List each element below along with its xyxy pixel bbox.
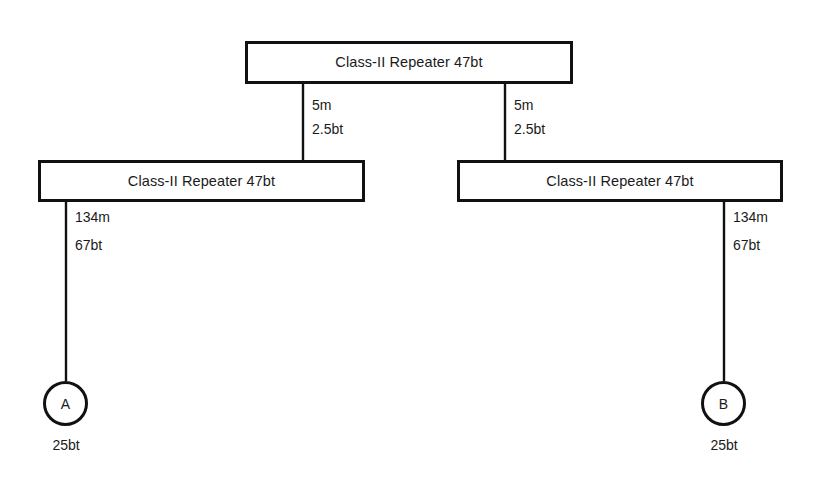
- station-b-budget-label: 25bt: [699, 438, 749, 452]
- station-b-letter: B: [719, 397, 728, 411]
- station-a-letter: A: [61, 397, 70, 411]
- link-label-right-to-b-length: 134m: [733, 208, 768, 227]
- station-a-node[interactable]: A: [43, 381, 88, 426]
- root-repeater-label: Class-II Repeater 47bt: [335, 55, 482, 70]
- link-label-root-to-right-length: 5m: [514, 96, 533, 115]
- link-label-left-to-a-budget: 67bt: [75, 236, 102, 255]
- link-label-root-to-left-length: 5m: [312, 96, 331, 115]
- network-diagram-canvas: Class-II Repeater 47bt Class-II Repeater…: [0, 0, 820, 481]
- root-repeater-box[interactable]: Class-II Repeater 47bt: [245, 41, 573, 84]
- link-label-left-to-a-length: 134m: [75, 208, 110, 227]
- right-repeater-box[interactable]: Class-II Repeater 47bt: [457, 160, 783, 202]
- left-repeater-box[interactable]: Class-II Repeater 47bt: [38, 160, 365, 202]
- station-a-budget-label: 25bt: [41, 438, 91, 452]
- left-repeater-label: Class-II Repeater 47bt: [128, 174, 275, 189]
- link-label-root-to-left-budget: 2.5bt: [312, 120, 343, 139]
- right-repeater-label: Class-II Repeater 47bt: [546, 174, 693, 189]
- station-b-node[interactable]: B: [701, 381, 746, 426]
- link-label-root-to-right-budget: 2.5bt: [514, 120, 545, 139]
- link-label-right-to-b-budget: 67bt: [733, 236, 760, 255]
